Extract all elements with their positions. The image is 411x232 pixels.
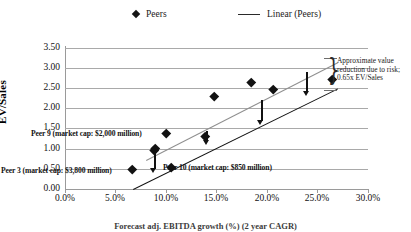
arrow-head bbox=[257, 120, 263, 125]
legend-item-peers: Peers bbox=[133, 9, 167, 19]
annotation-peer-10: Peer 10 (market cap: $850 million) bbox=[163, 163, 272, 172]
x-tick-15: 15.0% bbox=[193, 193, 239, 203]
annotation-risk-note: Approximate value reduction due to risk;… bbox=[337, 57, 411, 83]
x-tick-0: 0.0% bbox=[42, 193, 88, 203]
y-tick-3-50: 3.50 bbox=[22, 42, 60, 54]
data-point bbox=[201, 131, 210, 140]
x-tick-20: 20.0% bbox=[244, 193, 290, 203]
x-axis-title: Forecast adj. EBITDA growth (%) (2 year … bbox=[0, 221, 411, 232]
annotation-peer-9: Peer 9 (market cap: $2,000 million) bbox=[31, 129, 142, 138]
y-tick-2-50: 2.50 bbox=[22, 82, 60, 94]
x-tick-5: 5.0% bbox=[92, 193, 138, 203]
data-point bbox=[128, 164, 137, 173]
arrow-shaft bbox=[306, 72, 308, 92]
y-tick-3-00: 3.00 bbox=[22, 62, 60, 74]
y-tick-1-00: 1.00 bbox=[22, 143, 60, 155]
data-point bbox=[210, 92, 219, 101]
x-tick-25: 25.0% bbox=[294, 193, 340, 203]
chart-screenshot: Peers Linear (Peers) EV/Sales 3.50 3.00 … bbox=[0, 0, 411, 232]
legend-label-peers: Peers bbox=[146, 9, 167, 19]
x-tick-30: 30.0% bbox=[345, 193, 391, 203]
x-tick-10: 10.0% bbox=[143, 193, 189, 203]
arrow-head bbox=[203, 140, 209, 145]
y-tick-2-00: 2.00 bbox=[22, 102, 60, 114]
y-axis-title: EV/Sales bbox=[0, 80, 8, 124]
legend-label-linear: Linear (Peers) bbox=[267, 9, 321, 19]
chart-legend: Peers Linear (Peers) bbox=[0, 6, 411, 28]
annotation-peer-3: Peer 3 (market cap: $3,800 million) bbox=[1, 166, 112, 175]
arrow-shaft bbox=[261, 100, 263, 120]
brace-tick-bottom bbox=[324, 90, 337, 91]
arrow-head bbox=[303, 91, 309, 96]
diamond-marker-icon bbox=[132, 10, 140, 18]
data-point bbox=[161, 129, 170, 138]
trendline-peers bbox=[146, 62, 338, 161]
legend-item-linear: Linear (Peers) bbox=[238, 9, 321, 19]
trendline-risk-adjusted bbox=[133, 88, 338, 190]
data-point bbox=[246, 77, 255, 86]
arrow-head bbox=[150, 168, 156, 173]
line-marker-icon bbox=[238, 14, 260, 15]
